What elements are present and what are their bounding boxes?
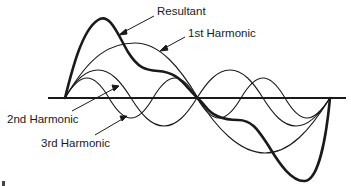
arrowhead-icon bbox=[160, 45, 168, 51]
resultant-label: Resultant bbox=[157, 6, 206, 18]
harmonics-diagram: Resultant 1st Harmonic 2nd Harmonic 3rd … bbox=[0, 0, 351, 186]
corner-mark bbox=[2, 181, 5, 186]
resultant-wave bbox=[65, 18, 330, 181]
arrowhead-icon bbox=[119, 29, 127, 35]
third-harmonic-pointer bbox=[95, 118, 124, 135]
second-harmonic-label: 2nd Harmonic bbox=[7, 114, 79, 126]
resultant-pointer bbox=[122, 16, 154, 33]
third-harmonic-label: 3rd Harmonic bbox=[41, 138, 110, 150]
first-harmonic-label: 1st Harmonic bbox=[188, 28, 256, 40]
arrowhead-icon bbox=[112, 85, 119, 91]
second-harmonic-pointer bbox=[72, 88, 115, 111]
waveform-canvas bbox=[0, 0, 351, 186]
